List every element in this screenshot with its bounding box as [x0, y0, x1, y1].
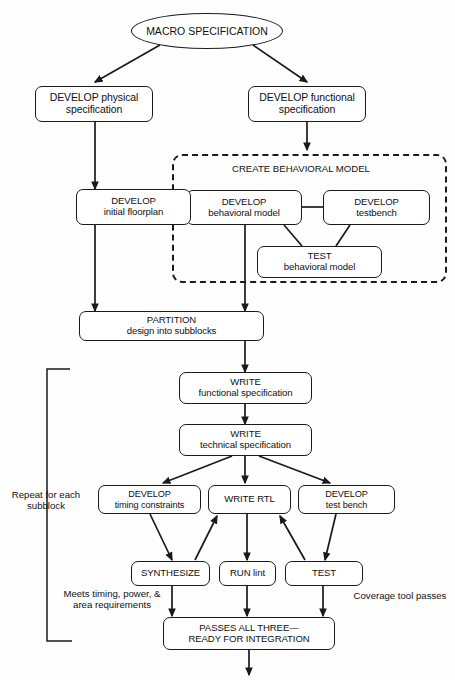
- node-run-lint[interactable]: RUN lint: [219, 561, 276, 586]
- node-develop-testbench[interactable]: DEVELOP testbench: [323, 190, 430, 225]
- annotation-coverage-tool-passes: Coverage tool passes: [352, 590, 448, 601]
- node-label-line1: TEST: [312, 568, 336, 579]
- edge-writetech-to-testbench2: [259, 456, 330, 483]
- annotation-line1: Repeat for: [12, 489, 57, 500]
- node-label-line2: functional specification: [198, 388, 292, 399]
- node-label-line2: specification: [279, 104, 335, 116]
- node-label: MACRO SPECIFICATION: [146, 25, 268, 37]
- edge-macro-to-physical: [95, 45, 160, 82]
- node-write-technical-specification[interactable]: WRITE technical specification: [179, 424, 312, 456]
- node-label-line2: design into subblocks: [127, 326, 217, 337]
- node-label-line2: timing constraints: [115, 500, 185, 510]
- node-test[interactable]: TEST: [285, 561, 363, 586]
- node-synthesize[interactable]: SYNTHESIZE: [131, 561, 210, 586]
- node-test-behavioral-model[interactable]: TEST behavioral model: [257, 246, 382, 278]
- edge-test-to-rtl: [280, 516, 305, 560]
- edge-synthesize-to-rtl: [195, 516, 217, 560]
- node-label-line2: behavioral model: [284, 262, 355, 273]
- annotation-line3: subblock: [27, 500, 65, 511]
- node-label-line1: SYNTHESIZE: [141, 568, 200, 579]
- node-develop-functional-specification[interactable]: DEVELOP functional specification: [248, 86, 366, 122]
- edge-testbench2-to-test: [325, 514, 336, 560]
- node-develop-initial-floorplan[interactable]: DEVELOP initial floorplan: [76, 189, 191, 225]
- node-develop-test-bench[interactable]: DEVELOP test bench: [298, 485, 395, 514]
- node-label-line1: PASSES ALL THREE—: [199, 623, 298, 634]
- annotation-line2: passes: [416, 590, 446, 601]
- annotation-line1: Coverage tool: [354, 590, 414, 601]
- annotation-line2: each: [59, 489, 80, 500]
- node-write-functional-specification[interactable]: WRITE functional specification: [179, 372, 312, 404]
- node-label-line2: test bench: [326, 500, 367, 510]
- node-label-line2: testbench: [356, 208, 397, 219]
- node-partition-design-into-subblocks[interactable]: PARTITION design into subblocks: [79, 311, 264, 341]
- node-passes-all-three[interactable]: PASSES ALL THREE— READY FOR INTEGRATION: [163, 617, 335, 650]
- node-develop-physical-specification[interactable]: DEVELOP physical specification: [35, 86, 153, 122]
- node-label-line1: DEVELOP: [325, 489, 368, 499]
- edge-macro-to-functional: [253, 45, 307, 82]
- edge-writetech-to-timing: [163, 456, 232, 483]
- node-develop-timing-constraints[interactable]: DEVELOP timing constraints: [98, 485, 201, 514]
- node-macro-specification[interactable]: MACRO SPECIFICATION: [131, 13, 283, 49]
- node-label-line2: specification: [66, 104, 122, 116]
- node-label-line2: initial floorplan: [104, 207, 164, 218]
- node-develop-behavioral-model[interactable]: DEVELOP behavioral model: [186, 190, 302, 225]
- flowchart-canvas: MACRO SPECIFICATION DEVELOP physical spe…: [0, 0, 455, 680]
- node-write-rtl[interactable]: WRITE RTL: [208, 485, 291, 514]
- group-label-create-behavioral-model: CREATE BEHAVIORAL MODEL: [232, 163, 370, 174]
- annotation-repeat-for-each-subblock: Repeat for each subblock: [6, 489, 86, 512]
- node-label-line1: WRITE RTL: [224, 494, 275, 505]
- annotation-line1: Meets timing,: [63, 588, 120, 599]
- node-label-line1: DEVELOP: [354, 197, 399, 208]
- node-label-line2: technical specification: [200, 440, 291, 451]
- edge-timing-to-synthesize: [150, 514, 172, 560]
- node-label-line2: behavioral model: [208, 208, 279, 219]
- node-label-line2: READY FOR INTEGRATION: [188, 634, 309, 645]
- annotation-line3: requirements: [95, 599, 151, 610]
- node-label-line1: DEVELOP: [128, 489, 171, 499]
- annotation-meets-timing-power-area: Meets timing, power, & area requirements: [62, 588, 162, 611]
- node-label-line1: DEVELOP: [222, 197, 267, 208]
- node-label-line1: RUN lint: [230, 568, 265, 579]
